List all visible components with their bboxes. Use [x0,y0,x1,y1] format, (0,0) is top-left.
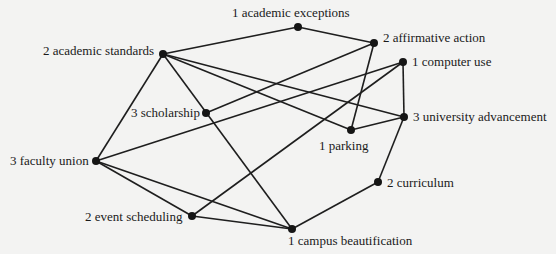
node-label-curriculum: 2 curriculum [387,176,454,190]
network-diagram: 1 academic exceptions2 affirmative actio… [0,0,556,254]
edge-academic-exceptions-affirmative-action [298,27,374,43]
edge-computer-use-event-scheduling [192,62,403,216]
node-label-scholarship: 3 scholarship [131,106,200,120]
node-label-parking: 1 parking [319,139,368,153]
node-affirmative-action [370,39,378,47]
node-parking [347,126,355,134]
node-label-campus-beautification: 1 campus beautification [288,234,412,248]
node-curriculum [374,178,382,186]
node-label-faculty-union: 3 faculty union [10,154,89,168]
node-label-computer-use: 1 computer use [412,55,491,69]
node-faculty-union [92,157,100,165]
edge-computer-use-university-advancement [403,62,404,117]
node-label-academic-exceptions: 1 academic exceptions [232,6,350,20]
edge-university-advancement-curriculum [378,117,404,182]
node-label-affirmative-action: 2 affirmative action [383,31,485,45]
node-label-event-scheduling: 2 event scheduling [85,210,182,224]
edge-academic-standards-academic-exceptions [163,27,298,54]
node-computer-use [399,58,407,66]
node-scholarship [202,109,210,117]
node-academic-exceptions [294,23,302,31]
edge-parking-university-advancement [351,117,404,130]
node-campus-beautification [288,225,296,233]
node-label-academic-standards: 2 academic standards [43,44,154,58]
node-university-advancement [400,113,408,121]
edge-curriculum-campus-beautification [292,182,378,229]
node-academic-standards [159,50,167,58]
node-label-university-advancement: 3 university advancement [413,110,547,124]
node-event-scheduling [188,212,196,220]
edge-event-scheduling-campus-beautification [192,216,292,229]
